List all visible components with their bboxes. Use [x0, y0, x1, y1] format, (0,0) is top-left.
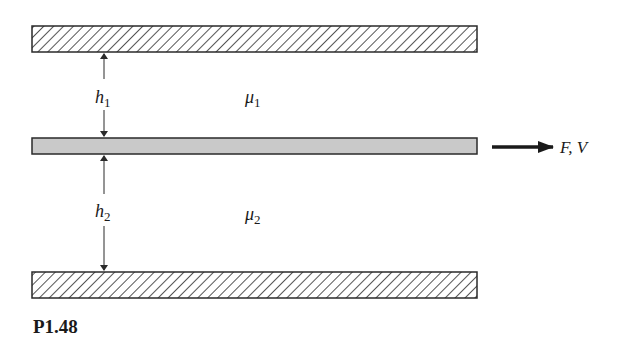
- h2-label: h2: [95, 201, 111, 224]
- bottom-fixed-plate: [32, 272, 477, 298]
- couette-flow-diagram: h1 h2 μ1 μ2 F, V P1.48: [0, 0, 631, 337]
- force-velocity-label: F, V: [559, 138, 590, 157]
- h1-label: h1: [95, 87, 111, 110]
- figure-caption: P1.48: [33, 316, 78, 337]
- mu1-label: μ1: [244, 87, 261, 110]
- top-fixed-plate: [32, 26, 477, 52]
- moving-plate: [32, 138, 477, 154]
- mu2-label: μ2: [244, 204, 261, 227]
